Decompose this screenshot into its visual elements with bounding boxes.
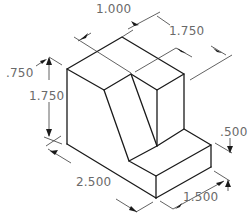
dimension-label-length: 2.500: [76, 176, 111, 188]
technical-drawing-canvas: 1.000 1.750 .750 1.750 .500 2.500 1.500: [0, 0, 249, 222]
dimension-label-top-depth: 1.000: [96, 3, 131, 15]
dimension-step-height: [215, 138, 233, 153]
dimension-label-step-height: .500: [220, 126, 248, 138]
dimension-label-step-width: 1.500: [183, 191, 218, 203]
dimension-label-top-width: 1.750: [169, 25, 204, 37]
dimension-label-height: 1.750: [29, 90, 64, 102]
dimension-top-depth: [74, 12, 160, 73]
object-outline: [67, 37, 211, 198]
dimension-label-slant-offset: .750: [6, 67, 34, 79]
dimension-length: [46, 136, 153, 212]
isometric-drawing: [0, 0, 249, 222]
